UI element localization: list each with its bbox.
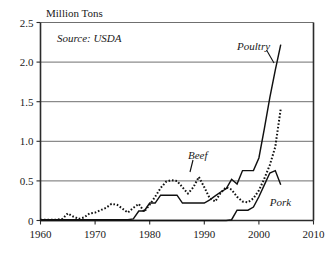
- x-tick-label: 1970: [84, 228, 107, 240]
- chart-container: 00.51.01.52.02.5 19601970198019902000201…: [0, 0, 334, 254]
- x-tick-label: 2000: [248, 228, 271, 240]
- x-tick-label: 2010: [303, 228, 326, 240]
- x-tick-label: 1960: [30, 228, 53, 240]
- y-axis-title: Million Tons: [46, 7, 103, 19]
- y-tick-label: 0: [28, 215, 34, 227]
- series-label-poultry: Poultry: [236, 40, 270, 52]
- x-tick-label: 1980: [139, 228, 162, 240]
- y-tick-label: 2.5: [20, 17, 34, 29]
- chart-background: [0, 0, 334, 254]
- y-tick-label: 1.0: [20, 135, 34, 147]
- y-tick-label: 2.0: [20, 56, 34, 68]
- y-tick-label: 0.5: [20, 175, 34, 187]
- million-tons-line-chart: 00.51.01.52.02.5 19601970198019902000201…: [0, 0, 334, 254]
- source-note: Source: USDA: [57, 32, 122, 44]
- x-tick-label: 1990: [193, 228, 216, 240]
- series-label-beef: Beef: [188, 149, 209, 161]
- series-label-pork: Pork: [269, 196, 293, 208]
- y-tick-label: 1.5: [20, 96, 34, 108]
